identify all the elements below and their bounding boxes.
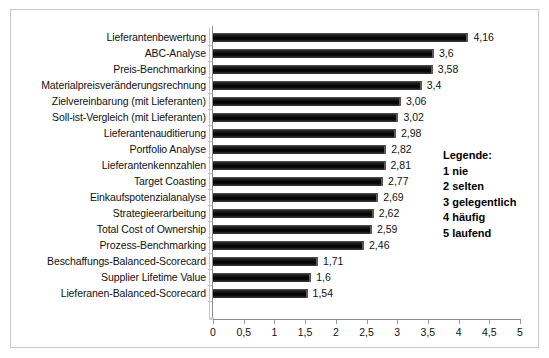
legend-item: 1 nie — [443, 164, 516, 180]
bar — [213, 145, 386, 154]
category-label: Soll-ist-Vergleich (mit Lieferanten) — [52, 112, 206, 123]
x-axis-tick-label: 0 — [198, 326, 228, 338]
bar — [213, 257, 318, 266]
bar — [213, 161, 386, 170]
bar — [213, 113, 398, 122]
category-tick — [208, 109, 212, 110]
category-label: Total Cost of Ownership — [97, 224, 206, 235]
x-axis-tick-label: 0,5 — [229, 326, 259, 338]
x-axis-tick-label: 5 — [505, 326, 535, 338]
bar-end-cap — [396, 114, 398, 122]
category-tick — [208, 157, 212, 158]
bar-end-cap — [316, 258, 318, 266]
category-tick — [208, 189, 212, 190]
x-axis-tick — [274, 320, 275, 324]
category-tick — [208, 77, 212, 78]
category-label: Lieferantenkennzahlen — [102, 160, 206, 171]
bar — [213, 225, 372, 234]
category-label: Lieferantenauditierung — [104, 128, 206, 139]
legend-item: 2 selten — [443, 179, 516, 195]
bar-end-cap — [381, 178, 383, 186]
value-label: 2,77 — [388, 176, 408, 187]
x-axis-tick — [428, 320, 429, 324]
category-label: Preis-Benchmarking — [113, 64, 206, 75]
bar-end-cap — [376, 194, 378, 202]
x-axis-tick-label: 3 — [382, 326, 412, 338]
category-tick — [208, 237, 212, 238]
category-label: Lieferantenbewertung — [106, 32, 206, 43]
legend-item: 4 häufig — [443, 210, 516, 226]
bar — [213, 33, 468, 42]
value-label: 3,6 — [439, 48, 454, 59]
bar-end-cap — [370, 226, 372, 234]
value-label: 2,62 — [379, 208, 399, 219]
x-axis-tick — [305, 320, 306, 324]
x-axis-tick — [489, 320, 490, 324]
category-label: Portfolio Analyse — [129, 144, 206, 155]
value-label: 2,98 — [401, 128, 421, 139]
x-axis-tick — [520, 320, 521, 324]
bar — [213, 97, 401, 106]
bar — [213, 193, 378, 202]
category-tick — [208, 173, 212, 174]
value-label: 3,4 — [427, 80, 442, 91]
value-label: 1,54 — [313, 288, 333, 299]
category-tick — [208, 285, 212, 286]
legend-item: 3 gelegentlich — [443, 195, 516, 211]
category-label: Materialpreisveränderungsrechnung — [41, 80, 206, 91]
category-tick — [208, 45, 212, 46]
bar-end-cap — [431, 66, 433, 74]
x-axis-tick-label: 4,5 — [474, 326, 504, 338]
legend-item: 5 laufend — [443, 226, 516, 242]
bar-end-cap — [384, 146, 386, 154]
bar-end-cap — [309, 274, 311, 282]
category-label: Lieferanen-Balanced-Scorecard — [61, 288, 206, 299]
category-tick — [208, 253, 212, 254]
x-axis-tick — [213, 320, 214, 324]
category-tick — [208, 301, 212, 302]
category-label: Beschaffungs-Balanced-Scorecard — [47, 256, 206, 267]
bar — [213, 65, 433, 74]
category-tick — [208, 125, 212, 126]
bar-chart: Lieferantenbewertung4,16ABC-Analyse3,6Pr… — [0, 0, 549, 358]
bar-end-cap — [432, 50, 434, 58]
bar — [213, 241, 364, 250]
x-axis-tick — [459, 320, 460, 324]
category-label: Target Coasting — [134, 176, 206, 187]
value-label: 2,69 — [383, 192, 403, 203]
x-axis-tick-label: 1,5 — [290, 326, 320, 338]
bar — [213, 273, 311, 282]
value-label: 3,06 — [406, 96, 426, 107]
bar-end-cap — [399, 98, 401, 106]
legend: Legende: 1 nie 2 selten 3 gelegentlich 4… — [443, 148, 516, 241]
bar — [213, 81, 422, 90]
value-label: 2,82 — [391, 144, 411, 155]
bar-end-cap — [372, 210, 374, 218]
bar — [213, 129, 396, 138]
bar-end-cap — [394, 130, 396, 138]
category-label: Einkaufspotenzialanalyse — [90, 192, 206, 203]
category-label: Zielvereinbarung (mit Lieferanten) — [52, 96, 206, 107]
category-tick — [208, 93, 212, 94]
value-label: 1,6 — [316, 272, 331, 283]
bar-end-cap — [384, 162, 386, 170]
category-tick — [208, 269, 212, 270]
value-label: 2,59 — [377, 224, 397, 235]
value-label: 1,71 — [323, 256, 343, 267]
value-label: 2,46 — [369, 240, 389, 251]
bar — [213, 289, 308, 298]
category-tick — [208, 221, 212, 222]
x-axis-tick — [367, 320, 368, 324]
x-axis-tick — [397, 320, 398, 324]
x-axis-tick-label: 4 — [444, 326, 474, 338]
legend-title: Legende: — [443, 148, 516, 164]
category-tick — [208, 61, 212, 62]
bar — [213, 177, 383, 186]
category-tick — [208, 205, 212, 206]
x-axis-tick-label: 2 — [321, 326, 351, 338]
x-axis-tick-label: 3,5 — [413, 326, 443, 338]
bar-end-cap — [362, 242, 364, 250]
x-axis-tick-label: 1 — [259, 326, 289, 338]
x-axis-tick — [336, 320, 337, 324]
bar — [213, 49, 434, 58]
